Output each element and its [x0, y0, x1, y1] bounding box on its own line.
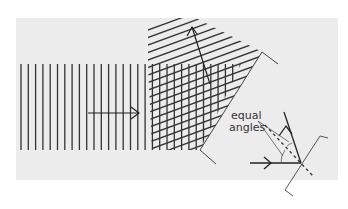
wave-reflection-diagram: equal angles	[0, 0, 348, 209]
equal-angles-label-line2: angles	[229, 121, 266, 134]
